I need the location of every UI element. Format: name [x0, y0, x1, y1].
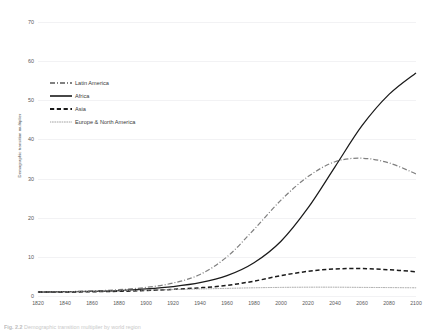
legend-item-label: Africa	[75, 93, 89, 99]
x-tick-label: 1880	[113, 300, 125, 306]
legend-item-label: Asia	[75, 106, 86, 112]
y-tick-label: 30	[28, 176, 34, 182]
legend-item-africa[interactable]: Africa	[50, 89, 200, 102]
line-dashed-icon	[50, 105, 72, 113]
x-tick-label: 1980	[248, 300, 260, 306]
series-line-latin-america	[38, 158, 416, 292]
y-tick-label: 60	[28, 58, 34, 64]
y-tick-label: 10	[28, 254, 34, 260]
legend-item-latin-america[interactable]: Latin America	[50, 76, 200, 89]
figure-caption: Fig. 2.2 Demographic transition multipli…	[4, 324, 419, 330]
x-tick-label: 2020	[302, 300, 314, 306]
x-tick-label: 2100	[410, 300, 422, 306]
x-tick-label: 1960	[221, 300, 233, 306]
y-tick-label: 20	[28, 215, 34, 221]
series-canvas	[38, 22, 416, 296]
legend-item-label: Europe & North America	[75, 119, 135, 125]
x-tick-label: 1920	[167, 300, 179, 306]
x-tick-label: 1840	[59, 300, 71, 306]
y-tick-label: 50	[28, 97, 34, 103]
x-tick-label: 1860	[86, 300, 98, 306]
x-tick-label: 1900	[140, 300, 152, 306]
figure-container: Demographic transition multiplier 010203…	[0, 0, 423, 333]
series-line-asia	[38, 269, 416, 293]
legend-item-label: Latin America	[75, 80, 109, 86]
y-axis-label: Demographic transition multiplier	[17, 81, 22, 211]
caption-text: Demographic transition multiplier by wor…	[24, 324, 141, 330]
legend-item-asia[interactable]: Asia	[50, 102, 200, 115]
legend-item-europe-north-america[interactable]: Europe & North America	[50, 115, 200, 128]
gridline	[38, 296, 416, 297]
line-dash-dot-icon	[50, 79, 72, 87]
caption-label: Fig. 2.2	[4, 324, 23, 330]
x-tick-label: 2040	[329, 300, 341, 306]
chart-legend: Latin AmericaAfricaAsiaEurope & North Am…	[50, 76, 200, 128]
x-tick-label: 1820	[32, 300, 44, 306]
line-solid-icon	[50, 92, 72, 100]
x-tick-label: 2080	[383, 300, 395, 306]
y-tick-label: 0	[31, 293, 34, 299]
y-tick-label: 40	[28, 136, 34, 142]
y-tick-label: 70	[28, 19, 34, 25]
x-tick-label: 2060	[356, 300, 368, 306]
x-tick-label: 1940	[194, 300, 206, 306]
line-dotted-icon	[50, 118, 72, 126]
x-tick-label: 2000	[275, 300, 287, 306]
plot-area: 010203040506070 182018401860188019001920…	[38, 22, 416, 296]
